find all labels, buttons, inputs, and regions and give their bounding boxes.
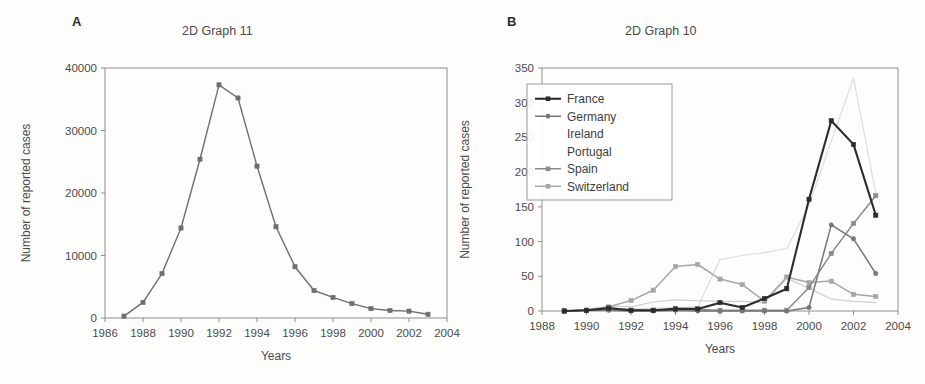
svg-text:Number of reported cases: Number of reported cases <box>458 120 472 259</box>
svg-text:1996: 1996 <box>707 320 733 332</box>
svg-text:0: 0 <box>528 305 534 317</box>
panel-a: A 2D Graph 11 01000020000300004000019861… <box>0 0 470 384</box>
svg-text:1998: 1998 <box>320 327 346 339</box>
figure-container: A 2D Graph 11 01000020000300004000019861… <box>0 0 925 384</box>
svg-text:350: 350 <box>515 62 534 74</box>
chart-a-plot: 0100002000030000400001986198819901992199… <box>0 0 470 384</box>
svg-text:1992: 1992 <box>618 320 644 332</box>
svg-text:30000: 30000 <box>65 125 97 137</box>
svg-text:1990: 1990 <box>574 320 600 332</box>
svg-text:20000: 20000 <box>65 187 97 199</box>
svg-text:Portugal: Portugal <box>567 145 612 159</box>
svg-text:Switzerland: Switzerland <box>567 180 629 194</box>
svg-text:1992: 1992 <box>206 327 232 339</box>
svg-text:40000: 40000 <box>65 62 97 74</box>
svg-text:2000: 2000 <box>796 320 822 332</box>
svg-text:10000: 10000 <box>65 250 97 262</box>
svg-text:1994: 1994 <box>244 327 270 339</box>
svg-text:Germany: Germany <box>567 110 616 124</box>
svg-text:1986: 1986 <box>92 327 118 339</box>
svg-text:1988: 1988 <box>529 320 555 332</box>
svg-text:Number of reported cases: Number of reported cases <box>19 124 33 263</box>
svg-text:1998: 1998 <box>752 320 778 332</box>
svg-text:0: 0 <box>91 312 97 324</box>
svg-text:2000: 2000 <box>358 327 384 339</box>
svg-text:2002: 2002 <box>841 320 867 332</box>
svg-text:100: 100 <box>515 236 534 248</box>
chart-b-plot: 0501001502002503003501988199019921994199… <box>455 0 925 384</box>
svg-text:1994: 1994 <box>663 320 689 332</box>
panel-b: B 2D Graph 10 05010015020025030035019881… <box>455 0 925 384</box>
svg-text:1988: 1988 <box>130 327 156 339</box>
svg-text:Spain: Spain <box>567 162 598 176</box>
svg-text:150: 150 <box>515 201 534 213</box>
svg-text:France: France <box>567 92 605 106</box>
svg-text:Years: Years <box>261 349 291 363</box>
svg-text:50: 50 <box>521 270 534 282</box>
svg-text:Years: Years <box>705 342 735 356</box>
svg-text:1990: 1990 <box>168 327 194 339</box>
svg-text:2004: 2004 <box>885 320 911 332</box>
svg-text:2002: 2002 <box>396 327 422 339</box>
svg-text:1996: 1996 <box>282 327 308 339</box>
svg-text:Ireland: Ireland <box>567 127 604 141</box>
